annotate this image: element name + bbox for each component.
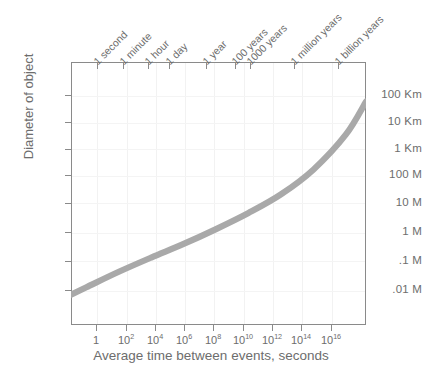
x-tick-label: 108 xyxy=(205,335,221,346)
y-tick-label: 10 Km xyxy=(360,116,422,128)
gridline-horizontal xyxy=(72,149,365,150)
x-tick-label-base: 10 xyxy=(233,334,245,346)
y-tick-mark xyxy=(65,95,71,96)
chart-figure: 100 Km 10 Km 1 Km 100 M 10 M 1 M .1 M .0… xyxy=(0,0,422,380)
x-tick-mark xyxy=(96,325,97,331)
x-tick-label-exponent: 4 xyxy=(159,332,163,341)
y-tick-mark xyxy=(65,261,71,262)
x-tick-label-base: 10 xyxy=(321,334,333,346)
x-tick-label-base: 1 xyxy=(93,334,99,346)
x-tick-mark xyxy=(301,325,302,331)
y-axis-title: Diameter of object xyxy=(22,17,35,197)
x-axis-title: Average time between events, seconds xyxy=(0,349,422,363)
gridline-vertical xyxy=(185,63,186,324)
gridline-vertical xyxy=(156,63,157,324)
x-tick-label-base: 10 xyxy=(291,334,303,346)
x-tick-label-exponent: 8 xyxy=(217,332,221,341)
x-tick-label: 1010 xyxy=(233,335,253,346)
gridline-horizontal xyxy=(72,176,365,177)
y-tick-mark xyxy=(65,175,71,176)
x-tick-label-exponent: 2 xyxy=(130,332,134,341)
y-tick-label: .01 M xyxy=(360,284,422,296)
y-tick-mark xyxy=(65,232,71,233)
gridline-horizontal xyxy=(72,233,365,234)
x-tick-label: 106 xyxy=(176,335,192,346)
x-tick-label: 102 xyxy=(118,335,134,346)
y-tick-mark xyxy=(65,149,71,150)
x-tick-label: 1016 xyxy=(321,335,341,346)
y-tick-label: 100 M xyxy=(360,169,422,181)
gridline-vertical xyxy=(302,63,303,324)
x-tick-label: 1014 xyxy=(291,335,311,346)
gridline-vertical xyxy=(244,63,245,324)
x-tick-mark xyxy=(243,325,244,331)
y-tick-mark xyxy=(65,290,71,291)
y-tick-label: 10 M xyxy=(360,197,422,209)
gridline-vertical xyxy=(332,63,333,324)
x-tick-label-exponent: 10 xyxy=(245,332,253,341)
y-tick-label: .1 M xyxy=(360,255,422,267)
gridline-vertical xyxy=(214,63,215,324)
y-tick-label: 100 Km xyxy=(360,89,422,101)
x-tick-label-base: 10 xyxy=(118,334,130,346)
plot-area xyxy=(71,62,366,325)
x-tick-label-exponent: 12 xyxy=(274,332,282,341)
y-tick-label: 1 Km xyxy=(360,143,422,155)
x-tick-mark xyxy=(155,325,156,331)
gridline-vertical xyxy=(127,63,128,324)
gridline-vertical xyxy=(97,63,98,324)
y-tick-label: 1 M xyxy=(360,226,422,238)
x-tick-mark xyxy=(126,325,127,331)
x-tick-label-exponent: 6 xyxy=(188,332,192,341)
x-tick-label-exponent: 16 xyxy=(333,332,341,341)
gridline-horizontal xyxy=(72,96,365,97)
x-tick-mark xyxy=(272,325,273,331)
x-tick-label-exponent: 14 xyxy=(303,332,311,341)
gridline-horizontal xyxy=(72,203,365,204)
y-tick-mark xyxy=(65,203,71,204)
gridline-horizontal xyxy=(72,261,365,262)
x-tick-mark xyxy=(213,325,214,331)
gridline-horizontal xyxy=(72,123,365,124)
x-tick-label-base: 10 xyxy=(262,334,274,346)
gridline-vertical xyxy=(273,63,274,324)
y-tick-mark xyxy=(65,122,71,123)
x-tick-label: 1 xyxy=(93,335,99,346)
x-tick-label: 104 xyxy=(147,335,163,346)
gridline-horizontal xyxy=(72,291,365,292)
x-tick-mark xyxy=(331,325,332,331)
x-tick-label-base: 10 xyxy=(176,334,188,346)
x-tick-mark xyxy=(184,325,185,331)
x-tick-label: 1012 xyxy=(262,335,282,346)
x-tick-label-base: 10 xyxy=(205,334,217,346)
x-tick-label-base: 10 xyxy=(147,334,159,346)
